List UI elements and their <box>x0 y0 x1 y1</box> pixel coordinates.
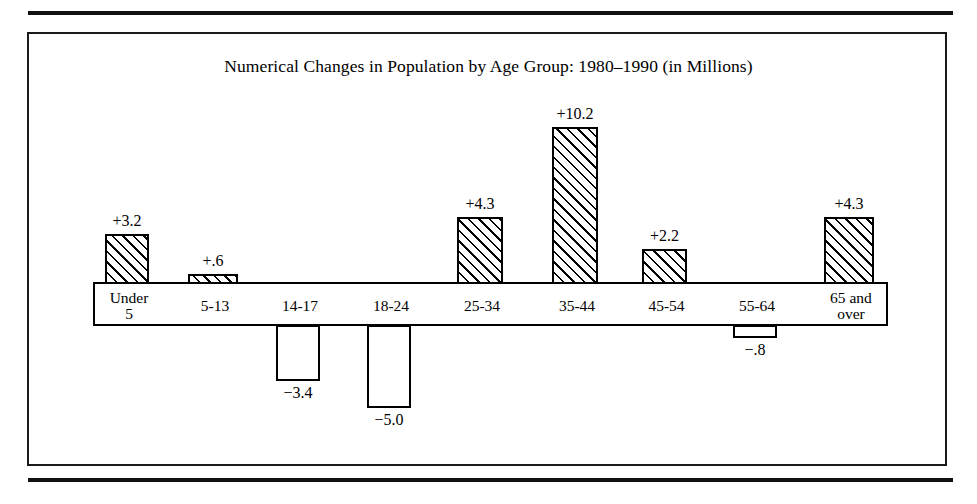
bar-value-label: +2.2 <box>620 227 709 245</box>
bar-under-5 <box>105 234 149 286</box>
axis-category-label: 45-54 <box>617 284 717 328</box>
axis-category-label: 25-34 <box>432 284 532 328</box>
axis-category-label: 35-44 <box>527 284 627 328</box>
axis-category-line1: 35-44 <box>559 298 595 314</box>
bar-14-17 <box>276 325 320 381</box>
bar-35-44 <box>552 127 598 286</box>
category-axis-band: Under55-1314-1718-2425-3435-4445-5455-64… <box>93 282 888 326</box>
axis-category-label: 14-17 <box>250 284 350 328</box>
axis-category-line1: Under <box>110 290 149 306</box>
bottom-rule <box>28 478 953 482</box>
bar-value-label: −5.0 <box>345 411 433 429</box>
bar-value-label: +.6 <box>166 252 260 270</box>
axis-category-label: 55-64 <box>707 284 807 328</box>
bar-value-label: −3.4 <box>254 384 342 402</box>
axis-category-line2: over <box>837 306 865 322</box>
axis-category-label: Under5 <box>79 284 179 328</box>
bar-value-label: +4.3 <box>435 195 525 213</box>
axis-category-line1: 18-24 <box>373 298 409 314</box>
bar-18-24 <box>367 325 411 408</box>
axis-category-line2: 5 <box>125 306 133 322</box>
axis-category-label: 18-24 <box>341 284 441 328</box>
bar-value-label: +3.2 <box>83 212 171 230</box>
page-root: Numerical Changes in Population by Age G… <box>0 0 977 504</box>
bar-45-54 <box>642 249 687 286</box>
bar-chart-plot: Under55-1314-1718-2425-3435-4445-5455-64… <box>0 0 977 504</box>
bar-65-and-over <box>824 217 874 286</box>
axis-category-line1: 5-13 <box>201 298 229 314</box>
axis-category-label: 65 andover <box>801 284 901 328</box>
bar-value-label: +10.2 <box>530 105 620 123</box>
axis-category-line1: 65 and <box>830 290 872 306</box>
bar-25-34 <box>457 217 503 286</box>
axis-category-line1: 25-34 <box>464 298 500 314</box>
axis-category-line1: 45-54 <box>648 298 684 314</box>
axis-category-line1: 55-64 <box>739 298 775 314</box>
bar-value-label: −.8 <box>711 341 799 359</box>
axis-category-line1: 14-17 <box>282 298 318 314</box>
bar-value-label: +4.3 <box>802 195 896 213</box>
